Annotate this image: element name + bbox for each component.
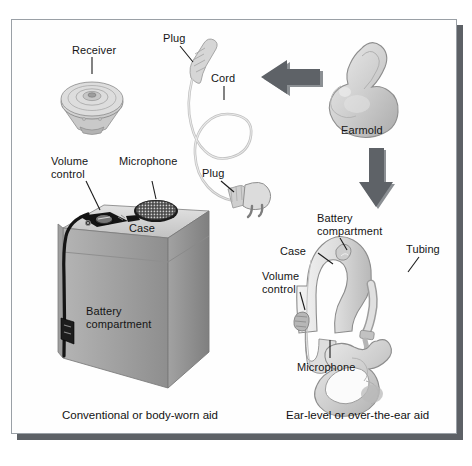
receiver-illustration: [61, 82, 123, 135]
cord-illustration: [189, 39, 271, 217]
figure-root: Receiver Plug Cord Plug Volume control M…: [0, 0, 472, 466]
leader-plug-top: [180, 46, 193, 62]
label-receiver: Receiver: [72, 44, 116, 57]
plug-bottom: [228, 182, 271, 217]
caption-ear-level-aid: Ear-level or over-the-ear aid: [286, 409, 429, 421]
label-volume-control-body: Volume control: [51, 155, 88, 180]
label-tubing: Tubing: [406, 243, 440, 256]
label-earmold: Earmold: [341, 124, 383, 137]
label-plug-bottom: Plug: [202, 167, 224, 180]
label-case-bte: Case: [280, 245, 306, 258]
label-microphone-bte: Microphone: [297, 361, 355, 374]
diagram-artwork: [0, 0, 472, 466]
label-microphone-body: Microphone: [119, 155, 177, 168]
label-volume-control-bte: Volume control: [262, 270, 299, 295]
label-battery-compartment-body: Battery compartment: [86, 305, 151, 330]
arrow-left: [261, 60, 323, 96]
label-cord: Cord: [211, 72, 235, 85]
arrow-down: [359, 148, 395, 209]
label-plug-top: Plug: [163, 32, 185, 45]
leader-plug-bottom: [221, 181, 234, 192]
label-case-body: Case: [129, 222, 155, 235]
label-battery-compartment-bte: Battery compartment: [317, 212, 382, 237]
leader-tubing: [408, 257, 419, 272]
caption-conventional-aid: Conventional or body-worn aid: [62, 409, 218, 421]
bte-aid-illustration: [294, 236, 392, 416]
leader-volume-control-body: [86, 181, 100, 210]
leader-microphone-body: [152, 181, 156, 199]
